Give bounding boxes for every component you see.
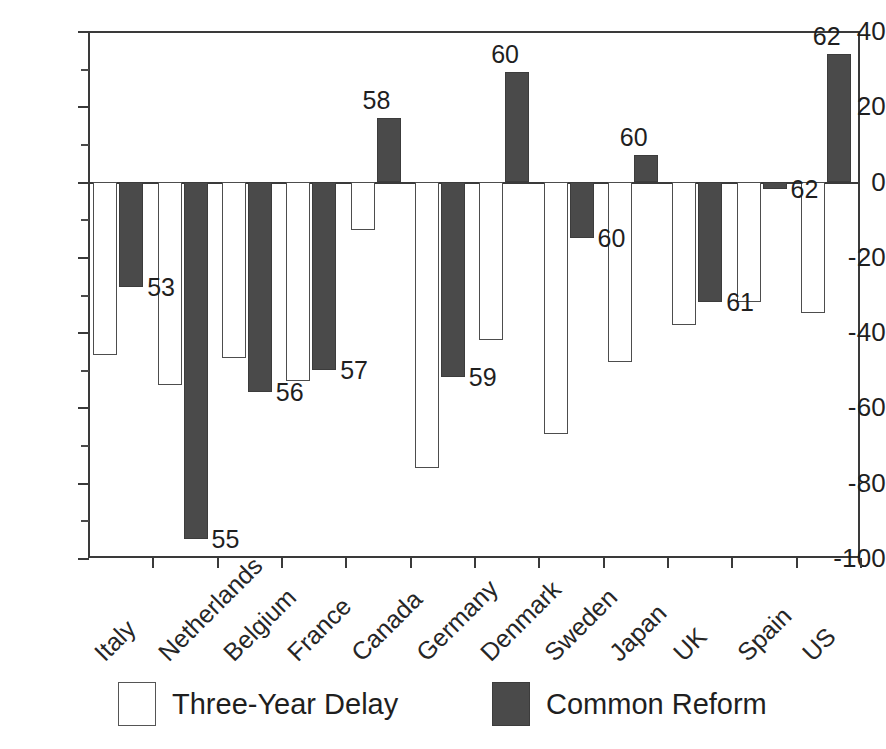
y-tick-label: -100 bbox=[812, 545, 886, 571]
y-tick-minor bbox=[81, 219, 89, 221]
bar-common-reform bbox=[312, 182, 336, 370]
x-tick bbox=[410, 558, 412, 568]
x-tick bbox=[217, 558, 219, 568]
value-label: 62 bbox=[791, 177, 819, 202]
value-label: 61 bbox=[726, 290, 754, 315]
legend-label-delay: Three-Year Delay bbox=[172, 689, 398, 719]
bar-common-reform bbox=[698, 182, 722, 302]
bar-three-year-delay bbox=[286, 182, 310, 382]
x-tick bbox=[796, 558, 798, 568]
value-label: 60 bbox=[491, 42, 519, 67]
bar-common-reform bbox=[634, 155, 658, 181]
category-label-uk: UK bbox=[669, 623, 711, 665]
y-tick-label: -40 bbox=[812, 319, 886, 345]
y-tick-minor bbox=[81, 370, 89, 372]
bar-common-reform bbox=[119, 182, 143, 287]
bar-three-year-delay bbox=[351, 182, 375, 231]
x-tick bbox=[152, 558, 154, 568]
value-label: 60 bbox=[620, 125, 648, 150]
category-label-canada: Canada bbox=[347, 586, 427, 666]
y-tick-minor bbox=[81, 69, 89, 71]
bar-common-reform bbox=[570, 182, 594, 238]
value-label: 55 bbox=[212, 527, 240, 552]
x-tick bbox=[603, 558, 605, 568]
x-tick bbox=[667, 558, 669, 568]
category-label-us: US bbox=[798, 623, 840, 665]
y-tick-minor bbox=[81, 445, 89, 447]
value-label: 59 bbox=[469, 365, 497, 390]
bar-common-reform bbox=[377, 118, 401, 182]
category-label-italy: Italy bbox=[90, 616, 140, 666]
x-tick bbox=[474, 558, 476, 568]
bar-common-reform bbox=[827, 54, 851, 182]
bar-common-reform bbox=[184, 182, 208, 540]
bar-three-year-delay bbox=[672, 182, 696, 325]
bar-three-year-delay bbox=[608, 182, 632, 363]
value-label: 56 bbox=[276, 380, 304, 405]
x-tick bbox=[281, 558, 283, 568]
legend-item-three-year-delay[interactable]: Three-Year Delay bbox=[118, 682, 398, 726]
x-tick bbox=[538, 558, 540, 568]
y-tick-minor bbox=[81, 295, 89, 297]
legend-item-common-reform[interactable]: Common Reform bbox=[492, 682, 767, 726]
value-label: 53 bbox=[147, 275, 175, 300]
value-label: 58 bbox=[363, 88, 391, 113]
value-label: 60 bbox=[598, 226, 626, 251]
bar-chart: 40200-20-40-60-80-100 535556575859606060… bbox=[0, 0, 886, 749]
category-label-spain: Spain bbox=[733, 603, 796, 666]
y-tick-label: -60 bbox=[812, 394, 886, 420]
y-tick-major bbox=[78, 407, 89, 409]
y-tick-major bbox=[78, 332, 89, 334]
bar-common-reform bbox=[441, 182, 465, 378]
value-label: 57 bbox=[340, 358, 368, 383]
legend-swatch-reform-icon bbox=[492, 682, 530, 726]
legend: Three-Year Delay Common Reform bbox=[0, 676, 886, 736]
x-tick bbox=[345, 558, 347, 568]
x-tick bbox=[860, 558, 862, 568]
bar-three-year-delay bbox=[222, 182, 246, 359]
bar-three-year-delay bbox=[544, 182, 568, 434]
bar-common-reform bbox=[763, 182, 787, 190]
y-tick-major bbox=[78, 31, 89, 33]
y-tick-minor bbox=[81, 144, 89, 146]
x-tick bbox=[731, 558, 733, 568]
legend-swatch-delay-icon bbox=[118, 682, 156, 726]
bar-three-year-delay bbox=[415, 182, 439, 468]
bar-common-reform bbox=[505, 72, 529, 181]
legend-label-reform: Common Reform bbox=[546, 689, 767, 719]
cropped-title-remnant bbox=[214, 0, 222, 4]
y-tick-label: -80 bbox=[812, 470, 886, 496]
y-tick-minor bbox=[81, 520, 89, 522]
bar-three-year-delay bbox=[737, 182, 761, 302]
bar-common-reform bbox=[248, 182, 272, 393]
y-tick-major bbox=[78, 483, 89, 485]
value-label: 62 bbox=[813, 24, 841, 49]
bar-three-year-delay bbox=[479, 182, 503, 340]
bar-three-year-delay bbox=[93, 182, 117, 355]
y-tick-major bbox=[78, 558, 89, 560]
y-tick-major bbox=[78, 106, 89, 108]
y-tick-major bbox=[78, 257, 89, 259]
